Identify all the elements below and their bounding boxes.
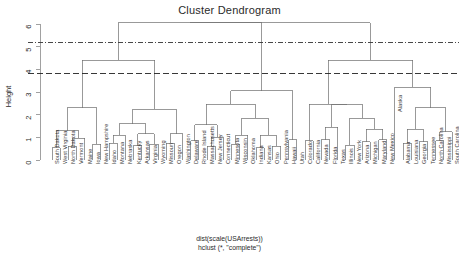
leaf-label: Rhode Island <box>201 130 207 164</box>
leaf-label: Oregon <box>176 145 182 164</box>
y-tick-label: 0 <box>24 161 33 175</box>
leaf-label: Tennessee <box>430 136 436 164</box>
leaf-label: New Mexico <box>389 133 395 164</box>
y-tick-label: 2 <box>24 115 33 129</box>
leaf-label: South Carolina <box>454 126 459 164</box>
leaf-label: Michigan <box>372 141 378 164</box>
leaf-label: Wyoming <box>160 140 166 164</box>
leaf-label: Oklahoma <box>250 138 256 164</box>
leaf-label: Indiana <box>258 145 264 164</box>
y-tick-label: 3 <box>24 93 33 107</box>
leaf-label: Maryland <box>381 141 387 164</box>
y-tick-label: 1 <box>24 138 33 152</box>
leaf-label: Alaska <box>397 95 403 112</box>
leaf-label: New York <box>356 140 362 164</box>
leaf-label: North Carolina <box>438 127 444 164</box>
leaf-label: Pennsylvania <box>283 130 289 164</box>
leaf-label: Louisiana <box>413 140 419 164</box>
leaf-label: West Virginia <box>62 131 68 164</box>
plot-footer: dist(scale(USArrests)) hclust (*, "compl… <box>0 234 459 252</box>
cluster-dendrogram-plot: Cluster Dendrogram Height 0123456 South … <box>0 0 459 262</box>
footer-line-2: hclust (*, "complete") <box>0 243 459 252</box>
y-tick-label: 5 <box>24 47 33 61</box>
leaf-label: Washington <box>185 134 191 164</box>
leaf-label: Missouri <box>168 143 174 164</box>
leaf-label: Alabama <box>405 142 411 164</box>
leaf-label: Nebraska <box>127 140 133 164</box>
leaf-label: Mississippi <box>446 136 452 164</box>
y-tick-label: 4 <box>24 70 33 84</box>
leaf-label: Massachusetts <box>209 126 215 164</box>
leaf-label: New Hampshire <box>103 124 109 164</box>
leaf-label: Utah <box>299 152 305 164</box>
leaf-label: Minnesota <box>234 138 240 164</box>
leaf-label: Nevada <box>323 144 329 164</box>
leaf-label: Illinois <box>348 148 354 164</box>
leaf-label: Florida <box>332 147 338 164</box>
leaf-label: Maine <box>87 149 93 165</box>
leaf-label: Texas <box>340 149 346 164</box>
leaf-label: California <box>315 140 321 164</box>
y-tick-label: 6 <box>24 25 33 39</box>
leaf-label: Vermont <box>78 143 84 164</box>
leaf-label: Delaware <box>193 140 199 164</box>
leaf-label: Montana <box>119 142 125 164</box>
leaf-label: Colorado <box>307 141 313 164</box>
leaf-label: Virginia <box>152 145 158 164</box>
leaf-label: Ohio <box>274 152 280 164</box>
leaf-label: Arizona <box>364 145 370 164</box>
leaf-label: South Dakota <box>54 130 60 165</box>
leaf-label: Hawaii <box>291 147 297 164</box>
leaf-label: Idaho <box>111 150 117 164</box>
leaf-label: North Dakota <box>70 130 76 164</box>
leaf-label: Kansas <box>266 145 272 164</box>
leaf-label: Georgia <box>421 144 427 164</box>
leaf-label: Wisconsin <box>242 138 248 164</box>
leaf-label: Connecticut <box>225 134 231 164</box>
leaf-label: Kentucky <box>136 141 142 164</box>
dendrogram-canvas <box>0 0 459 262</box>
leaf-label: Iowa <box>95 152 101 164</box>
footer-line-1: dist(scale(USArrests)) <box>0 234 459 243</box>
leaf-label: New Jersey <box>217 134 223 164</box>
leaf-label: Arkansas <box>144 140 150 164</box>
